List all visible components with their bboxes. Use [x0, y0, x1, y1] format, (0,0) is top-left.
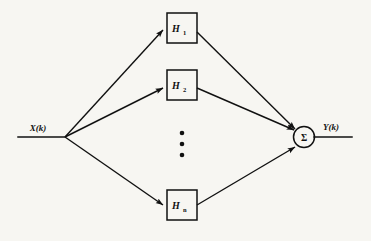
filter-block-h1: H 1 [167, 13, 197, 43]
connection-branch-to-h1 [65, 30, 163, 137]
ellipsis-dot [180, 131, 185, 136]
ellipsis-dot [180, 142, 185, 147]
filter-block-h1-subscript: 1 [183, 29, 186, 36]
output-signal-group: Y(k) [314, 122, 352, 137]
input-signal-group: X(k) [18, 123, 65, 137]
filter-block-hn: H n [167, 190, 197, 220]
input-signal-label: X(k) [29, 123, 47, 133]
summing-connections-group [197, 32, 295, 205]
connection-hn-to-sum [197, 147, 295, 205]
ellipsis-dot [180, 153, 185, 158]
filter-block-h2: H 2 [167, 70, 197, 100]
filter-block-h2-subscript: 2 [183, 86, 186, 93]
vertical-ellipsis [180, 131, 185, 158]
connection-h1-to-sum [197, 32, 295, 129]
filter-block-hn-label: H [171, 200, 181, 211]
filter-block-h1-label: H [171, 23, 181, 34]
block-diagram-figure: X(k) H 1 H 2 H n [0, 0, 371, 241]
diagram-canvas: X(k) H 1 H 2 H n [0, 0, 371, 241]
connection-branch-to-h2 [65, 88, 163, 137]
summing-node: Σ [294, 127, 315, 148]
output-signal-label: Y(k) [323, 122, 339, 132]
filter-block-hn-subscript: n [183, 206, 187, 213]
filter-block-h2-label: H [171, 80, 181, 91]
connection-branch-to-hn [65, 137, 163, 205]
summing-node-symbol: Σ [301, 133, 307, 143]
branch-connections-group [65, 30, 163, 205]
connection-h2-to-sum [197, 88, 294, 130]
